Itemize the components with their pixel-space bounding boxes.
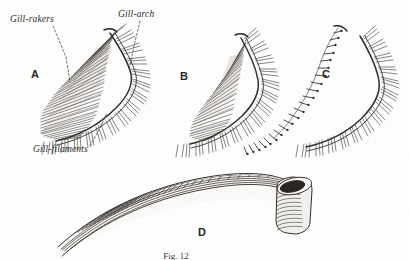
gill-arch-figure-plate: A	[0, 0, 409, 260]
figure-canvas: A	[0, 0, 409, 260]
paper-grain	[0, 0, 409, 260]
